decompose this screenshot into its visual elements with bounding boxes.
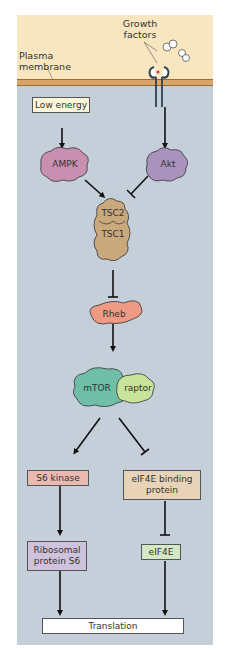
rheb-label: Rheb [99, 309, 129, 319]
receptor-icon [150, 67, 169, 107]
tsc2-label: TSC2 [99, 208, 127, 218]
ampk-label: AMPK [47, 159, 83, 169]
plasma-membrane-label: Plasma membrane [19, 50, 71, 72]
akt-label: Akt [153, 159, 183, 169]
eif4e-binding-protein-box: eIF4E binding protein [123, 470, 201, 500]
diagram-panel: Growth factors Plasma membrane Low energ… [17, 15, 213, 645]
ribosomal-protein-s6-box: Ribosomal protein S6 [27, 541, 87, 571]
mtor-label: mTOR [79, 383, 115, 393]
growth-factors-label: Growth factors [117, 18, 163, 40]
translation-box: Translation [42, 618, 184, 634]
s6-kinase-box: S6 kinase [27, 470, 89, 486]
eif4e-box: eIF4E [141, 544, 181, 560]
raptor-label: raptor [121, 383, 155, 393]
low-energy-box: Low energy [32, 97, 90, 113]
tsc1-label: TSC1 [99, 229, 127, 239]
growth-factor-ligand-icon [163, 40, 190, 62]
